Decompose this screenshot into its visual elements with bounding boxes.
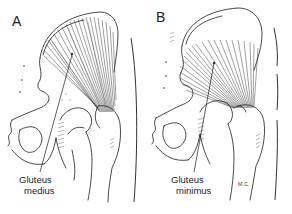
gluteus-medius-label: Gluteus medius	[19, 174, 55, 196]
panel-label-a: A	[12, 14, 21, 28]
label-line-2: medius	[19, 185, 55, 196]
panel-label-b: B	[156, 10, 165, 24]
gluteus-minimus-label: Gluteus minimus	[171, 174, 211, 196]
label-line-1: Gluteus	[171, 174, 204, 185]
label-line-1: Gluteus	[19, 174, 52, 185]
panel-a-gluteus-medius: A Gluteus medius	[0, 0, 146, 214]
anatomical-figure: A Gluteus medius	[0, 0, 292, 214]
panel-b-gluteus-minimus: B Gluteus minimus M.C.	[146, 0, 292, 214]
artist-initials: M.C.	[238, 181, 250, 187]
label-line-2: minimus	[171, 185, 211, 196]
hip-illustration-b	[146, 0, 292, 214]
